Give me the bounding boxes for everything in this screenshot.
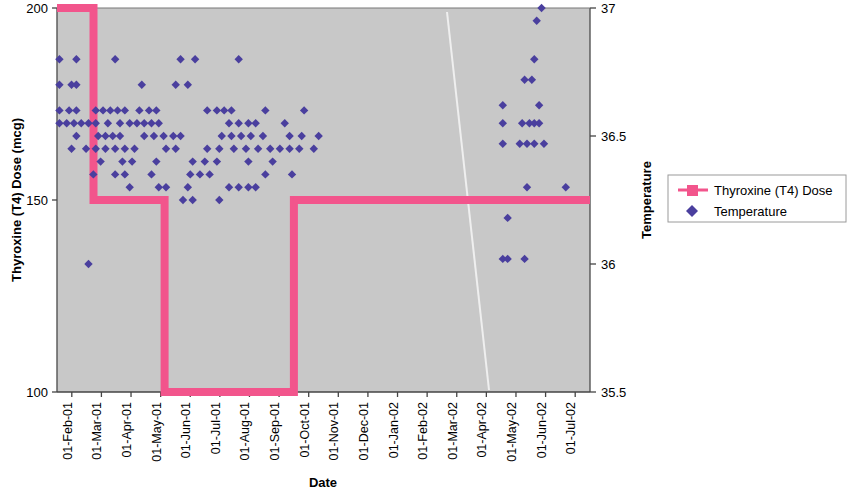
x-tick-label: 01-Jul-01 bbox=[209, 402, 223, 454]
chart-container: 100150200 35.53636.537 01-Feb-0101-Mar-0… bbox=[0, 0, 855, 494]
x-tick-label: 01-Jul-02 bbox=[564, 402, 578, 454]
x-tick-label: 01-Apr-02 bbox=[475, 402, 489, 458]
x-tick-label: 01-May-01 bbox=[150, 402, 164, 462]
chart-legend: Thyroxine (T4) Dose Temperature bbox=[668, 175, 846, 222]
x-tick-label: 01-Dec-01 bbox=[357, 402, 371, 460]
bottom-axis-title: Date bbox=[309, 475, 337, 490]
right-tick-label: 37 bbox=[601, 1, 615, 16]
left-tick-label: 200 bbox=[26, 1, 48, 16]
x-tick-label: 01-Oct-01 bbox=[298, 402, 312, 458]
x-tick-label: 01-Mar-02 bbox=[446, 402, 460, 460]
left-axis-ticks: 100150200 bbox=[26, 1, 57, 400]
x-tick-label: 01-Jan-02 bbox=[387, 402, 401, 458]
legend-label-temperature: Temperature bbox=[714, 204, 787, 219]
x-tick-label: 01-Jun-01 bbox=[179, 402, 193, 458]
right-tick-label: 35.5 bbox=[601, 385, 626, 400]
legend-square-icon bbox=[687, 185, 698, 196]
x-tick-label: 01-Feb-02 bbox=[416, 402, 430, 460]
x-tick-label: 01-Feb-01 bbox=[61, 402, 75, 460]
right-axis-title: Temperature bbox=[639, 161, 654, 239]
x-tick-label: 01-Jun-02 bbox=[535, 402, 549, 458]
x-tick-label: 01-Nov-01 bbox=[327, 402, 341, 460]
x-tick-label: 01-May-02 bbox=[505, 402, 519, 462]
right-tick-label: 36 bbox=[601, 257, 615, 272]
left-tick-label: 100 bbox=[26, 385, 48, 400]
right-axis-ticks: 35.53636.537 bbox=[590, 1, 626, 400]
x-tick-label: 01-Apr-01 bbox=[120, 402, 134, 458]
x-tick-label: 01-Sep-01 bbox=[268, 402, 282, 460]
bottom-axis-ticks: 01-Feb-0101-Mar-0101-Apr-0101-May-0101-J… bbox=[61, 392, 578, 462]
left-tick-label: 150 bbox=[26, 193, 48, 208]
left-axis-title: Thyroxine (T4) Dose (mcg) bbox=[9, 118, 24, 282]
x-tick-label: 01-Mar-01 bbox=[90, 402, 104, 460]
x-tick-label: 01-Aug-01 bbox=[238, 402, 252, 460]
right-tick-label: 36.5 bbox=[601, 129, 626, 144]
legend-label-thyroxine-dose: Thyroxine (T4) Dose bbox=[714, 183, 832, 198]
thyroxine-temperature-chart: 100150200 35.53636.537 01-Feb-0101-Mar-0… bbox=[0, 0, 855, 494]
